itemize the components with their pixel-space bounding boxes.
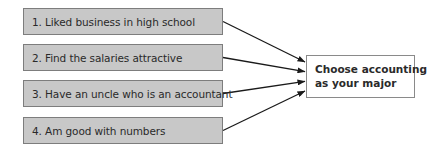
effect-label-line-1: Choose accounting [315,62,414,76]
cause-label: 4. Am good with numbers [32,125,165,137]
cause-label: 3. Have an uncle who is an accountant [32,88,232,100]
cause-box-numbers: 4. Am good with numbers [23,117,223,144]
cause-box-salaries: 2. Find the salaries attractive [23,44,223,71]
cause-label: 2. Find the salaries attractive [32,52,182,64]
cause-label: 1. Liked business in high school [32,16,195,28]
arrow-cause-3-to-effect [223,91,305,131]
arrow-cause-1-to-effect [223,58,305,72]
arrow-cause-0-to-effect [223,22,305,63]
arrow-cause-2-to-effect [223,81,305,93]
cause-box-uncle: 3. Have an uncle who is an accountant [23,80,223,107]
cause-box-liked-business: 1. Liked business in high school [23,8,223,35]
effect-label-line-2: as your major [315,76,414,90]
effect-box-choose-accounting: Choose accounting as your major [306,55,415,98]
